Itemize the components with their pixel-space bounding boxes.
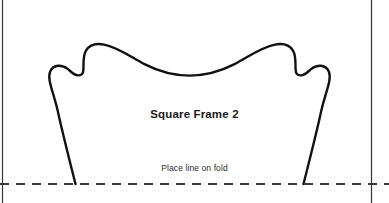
pattern-canvas bbox=[0, 0, 389, 203]
pattern-sheet: Square Frame 2 Place line on fold bbox=[0, 0, 389, 203]
sheet-background bbox=[0, 0, 389, 203]
